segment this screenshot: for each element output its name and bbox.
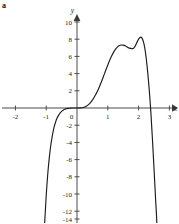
x-tick-label: 1 — [106, 113, 110, 121]
y-axis-arrow-icon — [74, 14, 81, 21]
y-tick-label: -4 — [66, 139, 72, 147]
figure-container: a — [0, 0, 179, 223]
y-tick-label: -6 — [66, 156, 72, 164]
y-tick-label: -10 — [63, 191, 73, 199]
y-axis-tick-labels: 10 8 6 4 2 -2 -4 -6 -8 -10 -12 -14 — [63, 19, 73, 224]
y-tick-label: 8 — [69, 36, 73, 44]
x-axis-label: x — [173, 104, 178, 113]
y-tick-label: 10 — [65, 19, 73, 27]
x-tick-label: 0 — [70, 113, 74, 121]
x-axis-tick-labels: -2 -1 0 1 2 3 — [12, 113, 171, 121]
y-tick-label: -2 — [66, 122, 72, 130]
plot-area: -2 -1 0 1 2 3 10 8 6 4 2 -2 -4 -6 -8 -10… — [0, 0, 179, 223]
y-tick-label: -8 — [66, 173, 72, 181]
y-tick-label: 6 — [69, 53, 73, 61]
x-tick-label: -2 — [12, 113, 18, 121]
x-tick-label: -1 — [43, 113, 49, 121]
y-tick-label: -14 — [63, 216, 73, 224]
y-tick-label: 4 — [69, 70, 73, 78]
y-tick-label: 2 — [69, 87, 73, 95]
y-axis-label: y — [70, 6, 75, 15]
function-curve — [44, 37, 164, 223]
x-tick-label: 2 — [137, 113, 141, 121]
x-tick-label: 3 — [168, 113, 172, 121]
y-tick-label: -12 — [63, 208, 73, 216]
